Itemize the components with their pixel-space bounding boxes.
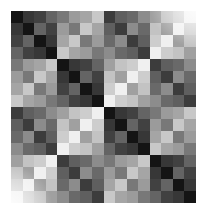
heatmap-cell <box>92 191 104 203</box>
heatmap-cell <box>57 11 69 23</box>
heatmap-cell <box>92 143 104 155</box>
heatmap-cell <box>104 95 116 107</box>
heatmap-cell <box>127 47 139 59</box>
heatmap-cell <box>115 35 127 47</box>
heatmap-cell <box>69 119 81 131</box>
heatmap-cell <box>184 119 196 131</box>
heatmap-cell <box>80 11 92 23</box>
heatmap-cell <box>104 71 116 83</box>
heatmap-cell <box>104 83 116 95</box>
heatmap-cell <box>57 23 69 35</box>
heatmap-cell <box>138 107 150 119</box>
heatmap-cell <box>184 83 196 95</box>
heatmap-cell <box>173 155 185 167</box>
heatmap-cell <box>104 23 116 35</box>
heatmap-cell <box>46 35 58 47</box>
heatmap-cell <box>104 119 116 131</box>
heatmap-cell <box>23 191 35 203</box>
heatmap-cell <box>80 191 92 203</box>
heatmap-cell <box>34 167 46 179</box>
heatmap-cell <box>57 35 69 47</box>
heatmap-cell <box>92 83 104 95</box>
heatmap-cell <box>161 191 173 203</box>
heatmap-cell <box>23 143 35 155</box>
heatmap-cell <box>138 47 150 59</box>
heatmap-cell <box>173 191 185 203</box>
heatmap-cell <box>161 143 173 155</box>
heatmap-cell <box>150 107 162 119</box>
heatmap-cell <box>11 167 23 179</box>
heatmap-cell <box>127 107 139 119</box>
heatmap-cell <box>57 59 69 71</box>
heatmap-cell <box>104 179 116 191</box>
heatmap-cell <box>34 143 46 155</box>
heatmap-cell <box>34 107 46 119</box>
heatmap-cell <box>69 47 81 59</box>
heatmap-cell <box>69 107 81 119</box>
heatmap-cell <box>34 59 46 71</box>
heatmap-cell <box>92 155 104 167</box>
heatmap-cell <box>127 119 139 131</box>
heatmap-cell <box>11 47 23 59</box>
heatmap-cell <box>138 23 150 35</box>
heatmap-cell <box>184 167 196 179</box>
heatmap-cell <box>115 23 127 35</box>
heatmap-cell <box>138 71 150 83</box>
heatmap-cell <box>150 191 162 203</box>
heatmap-cell <box>34 35 46 47</box>
heatmap-cell <box>127 191 139 203</box>
heatmap-cell <box>115 83 127 95</box>
heatmap-cell <box>92 179 104 191</box>
heatmap-cell <box>69 11 81 23</box>
heatmap-cell <box>34 155 46 167</box>
heatmap-cell <box>184 95 196 107</box>
heatmap-cell <box>115 71 127 83</box>
heatmap-cell <box>57 95 69 107</box>
heatmap-cell <box>138 179 150 191</box>
heatmap-cell <box>150 119 162 131</box>
heatmap-cell <box>46 47 58 59</box>
heatmap-cell <box>23 167 35 179</box>
heatmap-cell <box>173 131 185 143</box>
heatmap-cell <box>34 119 46 131</box>
heatmap-cell <box>161 107 173 119</box>
heatmap-cell <box>104 191 116 203</box>
heatmap-cell <box>104 47 116 59</box>
heatmap-cell <box>34 47 46 59</box>
heatmap-cell <box>127 83 139 95</box>
heatmap-cell <box>127 143 139 155</box>
heatmap-cell <box>161 23 173 35</box>
heatmap-cell <box>173 59 185 71</box>
heatmap-cell <box>80 107 92 119</box>
heatmap-cell <box>150 95 162 107</box>
heatmap-cell <box>115 11 127 23</box>
heatmap-cell <box>173 179 185 191</box>
heatmap-cell <box>173 23 185 35</box>
heatmap-cell <box>69 23 81 35</box>
heatmap-cell <box>11 131 23 143</box>
heatmap-cell <box>57 131 69 143</box>
heatmap-cell <box>69 167 81 179</box>
heatmap-cell <box>104 131 116 143</box>
heatmap-cell <box>11 143 23 155</box>
heatmap-cell <box>127 95 139 107</box>
heatmap-cell <box>23 155 35 167</box>
heatmap-cell <box>138 59 150 71</box>
heatmap-cell <box>11 71 23 83</box>
heatmap-cell <box>138 35 150 47</box>
heatmap-cell <box>46 107 58 119</box>
heatmap-cell <box>46 23 58 35</box>
heatmap-cell <box>150 47 162 59</box>
heatmap-cell <box>173 119 185 131</box>
heatmap-cell <box>57 143 69 155</box>
heatmap-cell <box>115 59 127 71</box>
heatmap-cell <box>161 71 173 83</box>
heatmap-cell <box>127 179 139 191</box>
heatmap-cell <box>11 95 23 107</box>
heatmap-cell <box>80 47 92 59</box>
heatmap-cell <box>161 11 173 23</box>
heatmap-cell <box>92 131 104 143</box>
heatmap-cell <box>57 167 69 179</box>
heatmap-cell <box>46 155 58 167</box>
heatmap-cell <box>127 35 139 47</box>
